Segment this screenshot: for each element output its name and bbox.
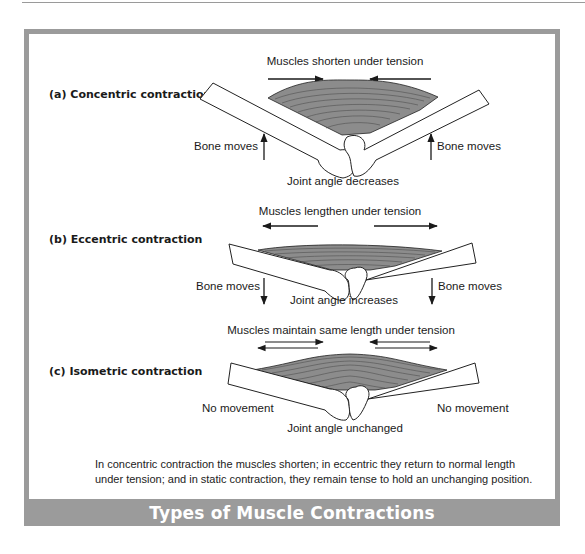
bone-note-right: Bone moves [438, 280, 502, 292]
panel-label: (c) Isometric contraction [49, 365, 202, 378]
panel-label: (b) Eccentric contraction [49, 233, 202, 246]
bone-note-left: Bone moves [196, 280, 260, 292]
panel-isometric: (c) Isometric contraction Muscles mainta… [49, 324, 509, 434]
muscle-caption: Muscles shorten under tension [267, 55, 424, 67]
bone-note-right: Bone moves [437, 140, 501, 152]
bone-note-left: Bone moves [194, 140, 258, 152]
joint-caption: Joint angle decreases [287, 175, 399, 187]
muscle-caption: Muscles lengthen under tension [259, 205, 421, 217]
joint-caption: Joint angle increases [290, 294, 398, 306]
panel-concentric: (a) Concentric contraction Muscles short… [49, 55, 501, 187]
joint-caption: Joint angle unchanged [287, 422, 403, 434]
muscle-caption: Muscles maintain same length under tensi… [227, 324, 455, 336]
panel-label: (a) Concentric contraction [49, 88, 211, 101]
bone-note-right: No movement [437, 402, 509, 414]
panel-eccentric: (b) Eccentric contraction Muscles length… [49, 205, 502, 306]
bone-note-left: No movement [202, 402, 274, 414]
figure-caption: In concentric contraction the muscles sh… [95, 457, 535, 487]
